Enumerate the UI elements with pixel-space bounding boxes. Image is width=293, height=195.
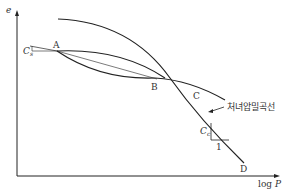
- y-axis-label: e: [6, 5, 11, 15]
- point-d-label: D: [240, 164, 247, 174]
- point-b-label: B: [151, 82, 158, 92]
- cs-label: Cs: [23, 46, 33, 57]
- curves: [30, 19, 244, 163]
- axes: [15, 10, 280, 178]
- slope-run-label: 1: [216, 142, 222, 152]
- x-axis-arrow-icon: [274, 174, 280, 178]
- virgin-curve-label: 처녀압밀곡선: [227, 101, 275, 112]
- lab-curve-bc: [155, 78, 225, 100]
- leader-arrow-icon: [208, 109, 213, 113]
- virgin-curve-leader: [212, 107, 224, 111]
- e-logp-diagram: e log P A B C D Cs Cc 1 처녀압밀곡선: [0, 0, 293, 195]
- point-c-label: C: [193, 91, 200, 101]
- x-axis-label: log P: [258, 179, 282, 189]
- point-a-label: A: [52, 40, 60, 50]
- y-axis-arrow-icon: [15, 10, 19, 16]
